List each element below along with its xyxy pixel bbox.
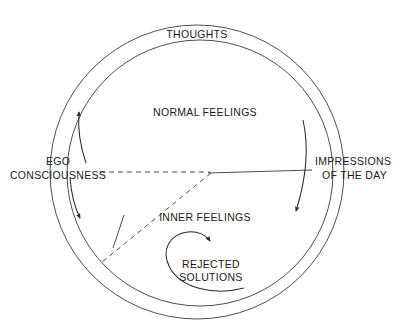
diagram-canvas: THOUGHTS NORMAL FEELINGS INNER FEELINGS …: [0, 0, 394, 335]
label-rejected-solutions-line1: REJECTED: [182, 258, 240, 270]
left-arrow-down: [70, 178, 80, 218]
label-thoughts: THOUGHTS: [166, 28, 227, 40]
centre-impressions-line: [208, 170, 312, 173]
label-rejected-solutions-line2: SOLUTIONS: [179, 271, 242, 283]
label-ego-line2: CONSCIOUSNESS: [10, 169, 106, 181]
radial-tick-segment: [113, 215, 124, 248]
label-impressions-line2: OF THE DAY: [322, 169, 387, 181]
label-impressions-line1: IMPRESSIONS: [315, 155, 391, 167]
psyche-circulation-diagram: THOUGHTS NORMAL FEELINGS INNER FEELINGS …: [0, 0, 394, 335]
label-ego-line1: EGO: [46, 155, 70, 167]
left-arrow-up: [79, 112, 86, 163]
label-inner-feelings: INNER FEELINGS: [159, 211, 251, 223]
label-normal-feelings: NORMAL FEELINGS: [153, 106, 257, 118]
right-arrow-down: [296, 120, 306, 211]
